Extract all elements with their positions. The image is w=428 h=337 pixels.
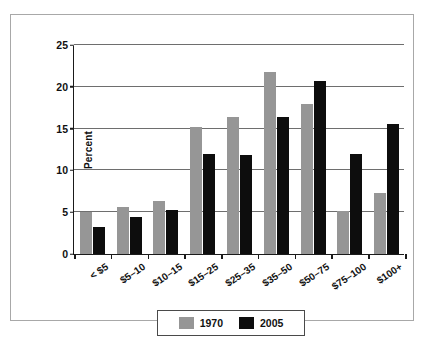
- bar-1970-$10–15: [153, 201, 165, 255]
- legend-label-2005: 2005: [260, 317, 283, 329]
- bar-2005-$15–25: [203, 154, 215, 254]
- bar-group: [117, 46, 142, 254]
- x-tick-label-$100+: $100+: [375, 261, 404, 286]
- y-tick-label-0: 0: [62, 248, 68, 260]
- x-tick-label-$50–75: $50–75: [297, 261, 331, 289]
- x-tick-mark: [295, 254, 297, 259]
- bar-2005-< $5: [93, 227, 105, 254]
- x-tick-mark: [258, 254, 260, 259]
- x-tick-label-$35–50: $35–50: [260, 261, 294, 289]
- bar-group: [337, 46, 362, 254]
- bar-group: [264, 46, 289, 254]
- legend-swatch-2005: [239, 317, 254, 329]
- x-tick-mark: [111, 254, 113, 259]
- x-tick-mark: [184, 254, 186, 259]
- bar-group: [153, 46, 178, 254]
- bar-group: [301, 46, 326, 254]
- y-tick-label-5: 5: [62, 206, 68, 218]
- legend-entry-2005: 2005: [239, 317, 283, 329]
- bar-group: [227, 46, 252, 254]
- x-tick-mark: [148, 254, 150, 259]
- plot-area: Percent 0510152025 < $5$5–10$10–15$15–25…: [73, 46, 404, 255]
- legend-entry-1970: 1970: [179, 317, 223, 329]
- x-tick-mark: [405, 254, 407, 259]
- x-tick-label-$5–10: $5–10: [118, 261, 147, 286]
- bar-2005-$50–75: [314, 81, 326, 254]
- x-tick-mark: [368, 254, 370, 259]
- x-tick-label-$15–25: $15–25: [187, 261, 221, 289]
- bar-group: [190, 46, 215, 254]
- x-tick-label-$25–35: $25–35: [224, 261, 258, 289]
- x-tick-label-$10–15: $10–15: [150, 261, 184, 289]
- figure-frame: Percent 0510152025 < $5$5–10$10–15$15–25…: [10, 14, 414, 321]
- bar-1970-$75–100: [337, 211, 349, 254]
- bars-layer: [74, 46, 404, 254]
- bar-1970-$15–25: [190, 127, 202, 254]
- legend-swatch-1970: [179, 317, 194, 329]
- bar-2005-$5–10: [130, 217, 142, 254]
- x-tick-mark: [331, 254, 333, 259]
- gridline-25: [74, 44, 404, 45]
- bar-1970-$25–35: [227, 117, 239, 254]
- y-tick-label-25: 25: [56, 39, 68, 51]
- bar-2005-$25–35: [240, 155, 252, 254]
- y-tick-label-10: 10: [56, 164, 68, 176]
- bar-1970-$50–75: [301, 104, 313, 254]
- y-tick-label-15: 15: [56, 123, 68, 135]
- bar-2005-$10–15: [166, 210, 178, 254]
- y-tick-label-20: 20: [56, 81, 68, 93]
- chart-figure: Percent 0510152025 < $5$5–10$10–15$15–25…: [0, 0, 428, 337]
- bar-group: [374, 46, 399, 254]
- x-tick-label-$75–100: $75–100: [329, 261, 367, 292]
- x-tick-mark: [221, 254, 223, 259]
- bar-1970-$5–10: [117, 207, 129, 254]
- x-tick-label-< $5: < $5: [88, 261, 111, 281]
- bar-group: [80, 46, 105, 254]
- bar-1970-< $5: [80, 212, 92, 254]
- bar-1970-$35–50: [264, 72, 276, 254]
- bar-2005-$100+: [387, 124, 399, 254]
- bar-2005-$35–50: [277, 117, 289, 254]
- x-tick-mark: [74, 254, 76, 259]
- legend-label-1970: 1970: [200, 317, 223, 329]
- chart-legend: 19702005: [157, 310, 305, 336]
- bar-1970-$100+: [374, 193, 386, 254]
- bar-2005-$75–100: [350, 154, 362, 254]
